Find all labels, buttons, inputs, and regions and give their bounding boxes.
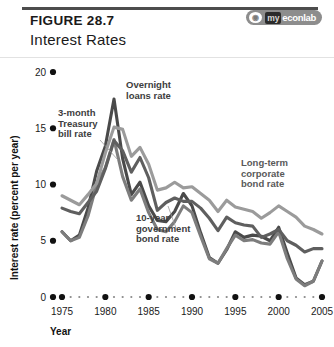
chart-series-lines	[62, 99, 322, 286]
annotation-overnight-loans-rate: Overnightloans rate	[126, 79, 172, 101]
x-tick-1990: 1990	[181, 306, 204, 317]
y-tick-10: 10	[35, 179, 47, 190]
annotation-10-year-government-bond-rate: 10-yeargovernmentbond rate	[136, 212, 191, 244]
y-axis-ticks	[50, 69, 56, 300]
x-tick-1995: 1995	[224, 306, 247, 317]
figure-container: FIGURE 28.7 Interest Rates ◉ my econlab …	[0, 0, 334, 347]
y-tick-0: 0	[40, 292, 46, 303]
x-tick-1975: 1975	[51, 306, 74, 317]
x-axis-major-ticks	[59, 294, 325, 300]
x-axis-tick-labels: 1975198019851990199520002005	[51, 306, 334, 317]
annotation-3-month-treasury-bill-rate: 3-monthTreasurybill rate	[58, 107, 98, 139]
y-axis-tick-labels: 05101520	[35, 67, 47, 303]
interest-rates-chart: 05101520 1975198019851990199520002005 Ov…	[0, 0, 334, 347]
chart-plot-area: 05101520 1975198019851990199520002005 Ov…	[0, 0, 334, 347]
x-axis-title: Year	[50, 326, 71, 337]
series-line-overnight-loans-rate	[62, 99, 322, 285]
x-tick-2000: 2000	[268, 306, 291, 317]
y-tick-20: 20	[35, 67, 47, 78]
x-tick-1980: 1980	[94, 306, 117, 317]
x-tick-1985: 1985	[138, 306, 161, 317]
y-tick-5: 5	[40, 235, 46, 246]
x-tick-2005: 2005	[311, 306, 334, 317]
y-tick-15: 15	[35, 123, 47, 134]
annotation-long-term-corporate-bond-rate: Long-termcorporatebond rate	[241, 157, 288, 189]
y-axis-title: Interest rate (percent per year)	[9, 135, 20, 280]
